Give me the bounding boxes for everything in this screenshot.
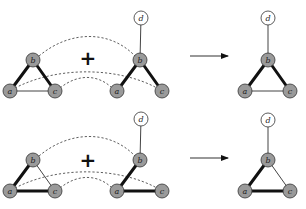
node-label: b	[265, 156, 270, 165]
node-label: b	[265, 56, 270, 65]
node-label: c	[53, 87, 58, 96]
graph-gluing-diagram: abcdbacdbacabcdbacdbac ++	[0, 0, 306, 209]
node-label: a	[115, 87, 120, 96]
node-label: c	[160, 187, 165, 196]
node-label: b	[30, 56, 35, 65]
node-c: c	[48, 84, 62, 98]
node-b: b	[261, 53, 275, 67]
node-c: c	[155, 184, 169, 198]
node-d: d	[134, 112, 148, 126]
node-label: c	[160, 87, 165, 96]
graph-edges	[10, 18, 290, 191]
node-b: b	[133, 53, 147, 67]
node-label: d	[265, 14, 270, 23]
node-b: b	[26, 53, 40, 67]
dashed-link-left-a-to-middle-c	[15, 172, 157, 188]
node-c: c	[283, 84, 297, 98]
dashed-link-left-c-to-middle-a	[60, 177, 112, 188]
node-label: b	[30, 156, 35, 165]
node-label: d	[265, 116, 270, 125]
graph-nodes: abcdbacdbacabcdbacdbac	[3, 11, 297, 198]
node-label: a	[243, 87, 248, 96]
plus-symbol: +	[80, 148, 97, 172]
node-label: c	[288, 87, 293, 96]
operators: ++	[80, 46, 228, 172]
node-c: c	[155, 84, 169, 98]
node-label: a	[8, 87, 13, 96]
node-label: d	[138, 14, 143, 23]
node-label: b	[137, 56, 142, 65]
node-label: a	[8, 187, 13, 196]
node-label: d	[138, 115, 143, 124]
node-b: b	[26, 153, 40, 167]
node-a: a	[110, 184, 124, 198]
node-a: a	[238, 184, 252, 198]
plus-symbol: +	[80, 46, 97, 70]
node-a: a	[3, 184, 17, 198]
node-label: c	[288, 187, 293, 196]
node-a: a	[3, 84, 17, 98]
node-label: b	[137, 156, 142, 165]
node-c: c	[48, 184, 62, 198]
node-label: a	[115, 187, 120, 196]
node-d: d	[261, 113, 275, 127]
node-label: c	[53, 187, 58, 196]
node-d: d	[261, 11, 275, 25]
node-b: b	[261, 153, 275, 167]
node-d: d	[134, 11, 148, 25]
node-label: a	[243, 187, 248, 196]
dashed-link-left-c-to-middle-a	[60, 77, 112, 88]
node-b: b	[133, 153, 147, 167]
node-c: c	[283, 184, 297, 198]
dashed-link-left-a-to-middle-c	[15, 72, 157, 88]
node-a: a	[110, 84, 124, 98]
node-a: a	[238, 84, 252, 98]
